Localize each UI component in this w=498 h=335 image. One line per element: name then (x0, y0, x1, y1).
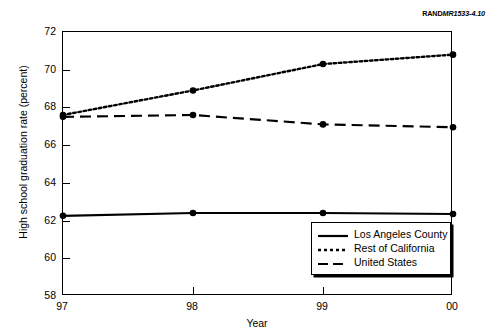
legend-item[interactable]: Rest of California (318, 241, 444, 255)
x-axis-tick-label: 97 (42, 300, 82, 312)
legend-swatch-dashed-icon (318, 256, 348, 268)
series-line (63, 115, 453, 127)
series-line (63, 213, 453, 216)
series-line (63, 55, 453, 115)
source-credit: RANDMR1533-4.10 (422, 10, 485, 17)
y-axis-tick-label: 70 (32, 64, 56, 74)
report-number-label: MR1533-4.10 (443, 9, 485, 18)
y-axis-title: High school graduation rate (percent) (16, 12, 30, 292)
y-axis-tick-label: 62 (32, 215, 56, 225)
data-point (450, 211, 457, 218)
x-axis-title: Year (62, 317, 452, 329)
legend[interactable]: Los Angeles CountyRest of CaliforniaUnit… (311, 222, 451, 275)
data-point (190, 112, 197, 119)
y-axis-tick-label: 72 (32, 26, 56, 36)
x-axis-tick-label: 00 (432, 300, 472, 312)
data-point (190, 210, 197, 217)
data-point (60, 213, 67, 220)
data-point (190, 87, 197, 94)
legend-item[interactable]: Los Angeles County (318, 227, 444, 241)
legend-swatch-solid-icon (318, 228, 348, 240)
data-point (60, 114, 67, 121)
series-united-states (60, 112, 457, 131)
y-axis-tick-label: 58 (32, 290, 56, 300)
x-axis-tick-label: 98 (172, 300, 212, 312)
y-axis-tick-label: 64 (32, 177, 56, 187)
data-point (450, 51, 457, 58)
figure: RANDMR1533-4.10 High school graduation r… (0, 0, 498, 335)
y-axis-tick-label: 66 (32, 139, 56, 149)
series-los-angeles-county (60, 210, 457, 219)
x-axis-tick-label: 99 (302, 300, 342, 312)
data-point (320, 121, 327, 128)
legend-swatch-dotted-icon (318, 242, 348, 254)
y-axis-tick-label: 60 (32, 252, 56, 262)
legend-label: Los Angeles County (354, 228, 447, 240)
legend-item[interactable]: United States (318, 255, 444, 269)
data-point (320, 61, 327, 68)
legend-label: United States (354, 256, 417, 268)
y-axis-tick-label: 68 (32, 101, 56, 111)
data-point (450, 124, 457, 131)
legend-label: Rest of California (354, 242, 435, 254)
data-point (320, 210, 327, 217)
rand-brand-label: RAND (422, 9, 442, 18)
series-rest-of-california (60, 51, 457, 118)
